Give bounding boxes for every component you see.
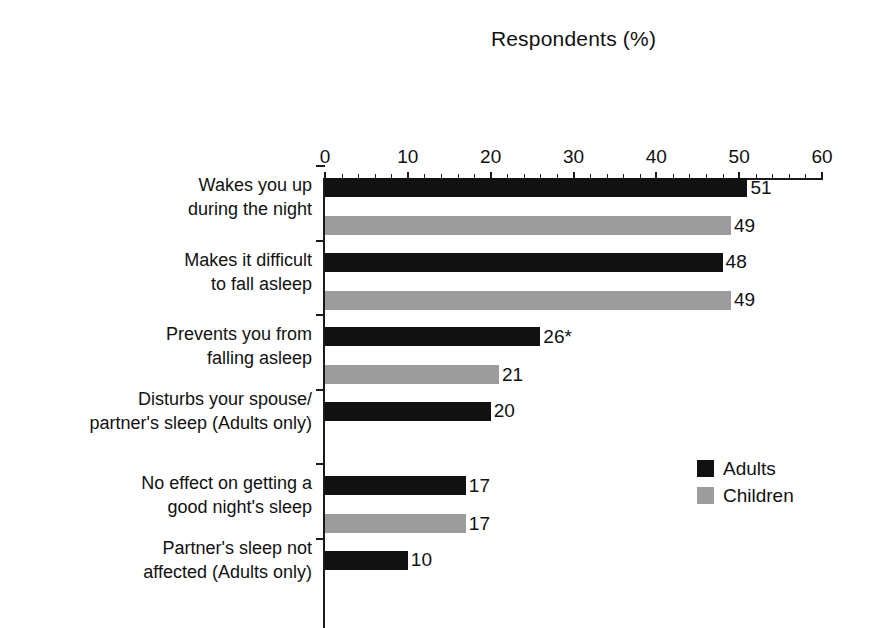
- bar-group: 5149: [325, 178, 822, 216]
- y-axis-tick: [316, 389, 325, 391]
- bar-adults[interactable]: [325, 402, 491, 421]
- category-label-line: partner's sleep (Adults only): [12, 411, 312, 435]
- bar-children[interactable]: [325, 365, 499, 384]
- category-label-line: No effect on getting a: [12, 471, 312, 495]
- legend-label-children: Children: [723, 485, 794, 507]
- bar-adults[interactable]: [325, 551, 408, 570]
- bar-value-label-children: 17: [466, 513, 490, 535]
- category-label-column: Wakes you upduring the nightMakes it dif…: [0, 90, 312, 538]
- bar-row-adults[interactable]: 51: [325, 178, 822, 197]
- x-tick-label: 10: [397, 146, 418, 168]
- bar-row-children[interactable]: 17: [325, 514, 822, 533]
- x-tick-label: 20: [480, 146, 501, 168]
- category-label-line: Makes it difficult: [12, 248, 312, 272]
- chart-title: Respondents (%): [325, 27, 822, 51]
- bar-value-label-children: 49: [731, 215, 755, 237]
- bar-value-label-children: 21: [499, 364, 523, 386]
- category-label: Wakes you upduring the night: [12, 173, 312, 221]
- category-label: Prevents you fromfalling asleep: [12, 322, 312, 370]
- y-axis-tick: [316, 240, 325, 242]
- bar-group: 4849: [325, 253, 822, 291]
- x-tick-label: 50: [729, 146, 750, 168]
- legend: Adults Children: [697, 455, 794, 509]
- bar-adults[interactable]: [325, 178, 747, 197]
- y-axis-tick: [316, 165, 325, 167]
- bar-row-adults[interactable]: 20: [325, 402, 822, 421]
- bar-row-children[interactable]: 21: [325, 365, 822, 384]
- bar-row-children[interactable]: 49: [325, 216, 822, 235]
- category-label-line: to fall asleep: [12, 272, 312, 296]
- bar-value-label-adults: 10: [408, 549, 432, 571]
- y-axis-tick: [316, 463, 325, 465]
- bar-group: 10: [325, 551, 822, 570]
- x-tick-label: 40: [646, 146, 667, 168]
- bar-value-label-adults: 48: [723, 251, 747, 273]
- category-label-line: falling asleep: [12, 346, 312, 370]
- legend-swatch-children-icon: [697, 487, 714, 504]
- category-label: Disturbs your spouse/partner's sleep (Ad…: [12, 387, 312, 435]
- bar-value-label-adults: 51: [747, 177, 771, 199]
- y-axis-tick: [316, 314, 325, 316]
- bar-row-adults[interactable]: 26*: [325, 327, 822, 346]
- bar-value-label-adults: 26*: [540, 326, 572, 348]
- bar-group: 20: [325, 402, 822, 421]
- y-axis-tick: [316, 538, 325, 540]
- bar-value-label-adults: 20: [491, 400, 515, 422]
- category-label-line: Partner's sleep not: [12, 536, 312, 560]
- bar-adults[interactable]: [325, 253, 723, 272]
- bar-adults[interactable]: [325, 476, 466, 495]
- bar-children[interactable]: [325, 291, 731, 310]
- bar-children[interactable]: [325, 514, 466, 533]
- category-label: Makes it difficultto fall asleep: [12, 248, 312, 296]
- legend-label-adults: Adults: [723, 458, 776, 480]
- bar-value-label-children: 49: [731, 289, 755, 311]
- legend-item-children: Children: [697, 482, 794, 509]
- category-label: No effect on getting agood night's sleep: [12, 471, 312, 519]
- bar-children[interactable]: [325, 216, 731, 235]
- bar-row-adults[interactable]: 10: [325, 551, 822, 570]
- bar-adults[interactable]: [325, 327, 540, 346]
- bar-row-adults[interactable]: 48: [325, 253, 822, 272]
- category-label-line: Prevents you from: [12, 322, 312, 346]
- category-label: Partner's sleep notaffected (Adults only…: [12, 536, 312, 584]
- category-label-line: during the night: [12, 197, 312, 221]
- x-tick-label: 30: [563, 146, 584, 168]
- bar-group: 26*21: [325, 327, 822, 365]
- x-tick-label: 60: [811, 146, 832, 168]
- category-label-line: Disturbs your spouse/: [12, 387, 312, 411]
- bar-row-children[interactable]: 49: [325, 291, 822, 310]
- category-label-line: affected (Adults only): [12, 560, 312, 584]
- bar-value-label-adults: 17: [466, 475, 490, 497]
- category-label-line: good night's sleep: [12, 495, 312, 519]
- legend-item-adults: Adults: [697, 455, 794, 482]
- legend-swatch-adults-icon: [697, 460, 714, 477]
- category-label-line: Wakes you up: [12, 173, 312, 197]
